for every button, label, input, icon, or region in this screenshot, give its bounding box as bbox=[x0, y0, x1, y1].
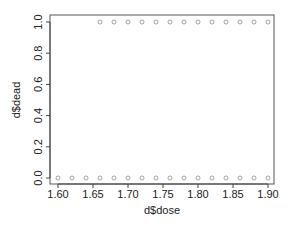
x-tick-label: 1.60 bbox=[47, 188, 68, 200]
plot-box bbox=[50, 15, 274, 184]
data-point bbox=[126, 176, 130, 180]
y-tick-label: 0.4 bbox=[32, 108, 44, 123]
data-point bbox=[182, 176, 186, 180]
data-point bbox=[210, 176, 214, 180]
data-point bbox=[224, 176, 228, 180]
x-axis-title: d$dose bbox=[144, 204, 180, 216]
y-axis: 0.00.20.40.60.81.0 bbox=[32, 14, 50, 185]
data-point bbox=[252, 176, 256, 180]
data-point bbox=[238, 176, 242, 180]
data-point bbox=[112, 176, 116, 180]
y-axis-title: d$dead bbox=[10, 82, 22, 119]
x-tick-label: 1.85 bbox=[222, 188, 243, 200]
data-point bbox=[56, 176, 60, 180]
data-point bbox=[154, 176, 158, 180]
y-tick-label: 0.8 bbox=[32, 46, 44, 61]
x-axis: 1.601.651.701.751.801.851.90 bbox=[47, 184, 278, 200]
data-point bbox=[266, 176, 270, 180]
data-point bbox=[98, 176, 102, 180]
data-point bbox=[112, 20, 116, 24]
y-tick-label: 0.2 bbox=[32, 139, 44, 154]
data-point bbox=[84, 176, 88, 180]
data-point bbox=[224, 20, 228, 24]
data-point bbox=[126, 20, 130, 24]
y-tick-label: 1.0 bbox=[32, 14, 44, 29]
y-tick-label: 0.0 bbox=[32, 170, 44, 185]
y-tick-label: 0.6 bbox=[32, 77, 44, 92]
data-point bbox=[210, 20, 214, 24]
data-point bbox=[168, 176, 172, 180]
data-point bbox=[140, 176, 144, 180]
data-point bbox=[252, 20, 256, 24]
data-point bbox=[140, 20, 144, 24]
data-point bbox=[196, 20, 200, 24]
x-tick-label: 1.80 bbox=[187, 188, 208, 200]
scatter-plot: 1.601.651.701.751.801.851.90 0.00.20.40.… bbox=[0, 0, 295, 226]
data-point bbox=[70, 176, 74, 180]
data-point bbox=[182, 20, 186, 24]
x-tick-label: 1.70 bbox=[117, 188, 138, 200]
x-tick-label: 1.65 bbox=[82, 188, 103, 200]
data-point bbox=[168, 20, 172, 24]
x-tick-label: 1.75 bbox=[152, 188, 173, 200]
data-point bbox=[266, 20, 270, 24]
data-point bbox=[238, 20, 242, 24]
data-point bbox=[98, 20, 102, 24]
data-point bbox=[196, 176, 200, 180]
data-points bbox=[56, 20, 270, 180]
x-tick-label: 1.90 bbox=[257, 188, 278, 200]
data-point bbox=[154, 20, 158, 24]
